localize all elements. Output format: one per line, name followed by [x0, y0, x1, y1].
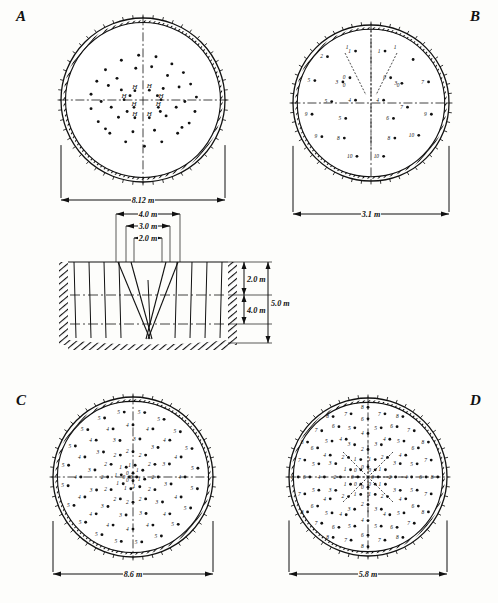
blast-hole [143, 411, 146, 414]
blast-hole [306, 510, 309, 513]
blast-hole [122, 482, 125, 485]
blast-hole [350, 539, 353, 542]
delay-label: 8 [388, 135, 391, 141]
delay-label: 1 [368, 456, 371, 462]
delay-label: 0 [343, 74, 346, 80]
delay-label: 3 [328, 487, 332, 493]
delay-label: 10 [374, 153, 380, 159]
blast-hole [316, 505, 319, 508]
blast-hole [401, 415, 404, 418]
blast-hole [179, 430, 182, 433]
delay-label: 1 [378, 48, 381, 54]
blast-hole [102, 451, 105, 454]
blast-hole [153, 488, 156, 491]
blast-hole [308, 476, 311, 479]
blast-hole [430, 459, 433, 462]
blast-hole [427, 441, 430, 444]
delay-label: 1 [138, 476, 141, 482]
blast-hole [163, 418, 166, 421]
delay-label: 0 [126, 477, 129, 483]
blast-hole [350, 412, 353, 415]
blast-hole [416, 462, 419, 465]
blast-hole [95, 439, 98, 442]
blast-hole [392, 117, 395, 120]
delay-label: 2 [361, 446, 364, 452]
delay-label: 5 [79, 519, 82, 525]
blast-hole [119, 454, 122, 457]
delay-label: 4 [376, 97, 379, 103]
delay-label: H [155, 100, 162, 108]
blast-hole [128, 476, 131, 479]
delay-label: 4 [323, 496, 326, 502]
blast-hole [338, 425, 341, 428]
delay-label: 1 [128, 462, 131, 468]
blast-hole [188, 122, 191, 125]
blast-hole [384, 483, 387, 486]
blast-hole [399, 462, 402, 465]
blast-hole [359, 458, 362, 461]
blast-hole [100, 100, 103, 103]
blast-hole [138, 485, 141, 488]
delay-label: 4 [89, 511, 92, 517]
delay-label: 3 [392, 487, 396, 493]
delay-label: 8 [326, 413, 329, 419]
blast-hole [131, 130, 134, 133]
delay-label: 7 [421, 79, 424, 85]
blast-hole [380, 426, 383, 429]
blast-hole [189, 507, 192, 510]
blast-hole [153, 463, 156, 466]
panel-letter-a: A [16, 8, 26, 25]
blast-hole [380, 443, 383, 446]
blast-hole [117, 116, 120, 119]
blast-hole [110, 106, 113, 109]
blast-hole [181, 126, 184, 129]
delay-label: 5 [338, 115, 341, 121]
delay-label: 4 [405, 474, 408, 480]
delay-label: 6 [311, 503, 314, 509]
delay-label: 5 [184, 505, 187, 511]
delay-label: 2 [113, 452, 116, 458]
blast-hole [112, 427, 115, 430]
blast-hole [410, 476, 413, 479]
delay-label: 8 [361, 543, 364, 549]
delay-label: 10 [347, 153, 353, 159]
delay-label: 1 [348, 48, 351, 54]
blast-hole [353, 426, 356, 429]
delay-label: 5 [157, 416, 160, 422]
delay-label: 1 [379, 481, 382, 487]
blast-hole [347, 456, 350, 459]
panel-b-drawing: 1100257335744995691088101011003.1 m [290, 22, 453, 220]
blast-hole [159, 110, 162, 113]
delay-label: 6 [332, 423, 335, 429]
blast-hole [140, 540, 143, 543]
section-width-1: 4.0 m [138, 210, 158, 219]
blast-hole [403, 440, 406, 443]
blast-hole [349, 483, 352, 486]
delay-label: 6 [386, 115, 389, 121]
blast-hole [374, 483, 377, 486]
delay-label: 6 [332, 524, 335, 530]
delay-label: 1 [379, 466, 382, 472]
delay-label: 4 [348, 97, 351, 103]
delay-label: 2 [342, 454, 345, 460]
delay-label: 1 [394, 44, 397, 50]
blast-hole [108, 132, 111, 135]
perimeter-hole [104, 262, 106, 338]
delay-label: 1 [344, 466, 347, 472]
delay-label: 8 [326, 534, 329, 540]
delay-label: 3 [335, 79, 339, 85]
delay-label: 1 [344, 481, 347, 487]
blast-hole [359, 493, 362, 496]
delay-label: 7 [315, 427, 318, 433]
perimeter-hole [89, 262, 91, 338]
delay-label: 8 [431, 474, 434, 480]
delay-label: 3 [162, 461, 166, 467]
blast-hole [137, 54, 140, 57]
panel-a-diameter-label: 8.12 m [132, 196, 155, 205]
blast-hole [110, 488, 113, 491]
blast-hole [67, 484, 70, 487]
blast-hole [436, 476, 439, 479]
blast-hole [347, 495, 350, 498]
figure-tunnel-blast-patterns: A B C D HHHHHHHH8.12 m 11002573357449956… [0, 0, 498, 603]
blast-hole [334, 462, 337, 465]
